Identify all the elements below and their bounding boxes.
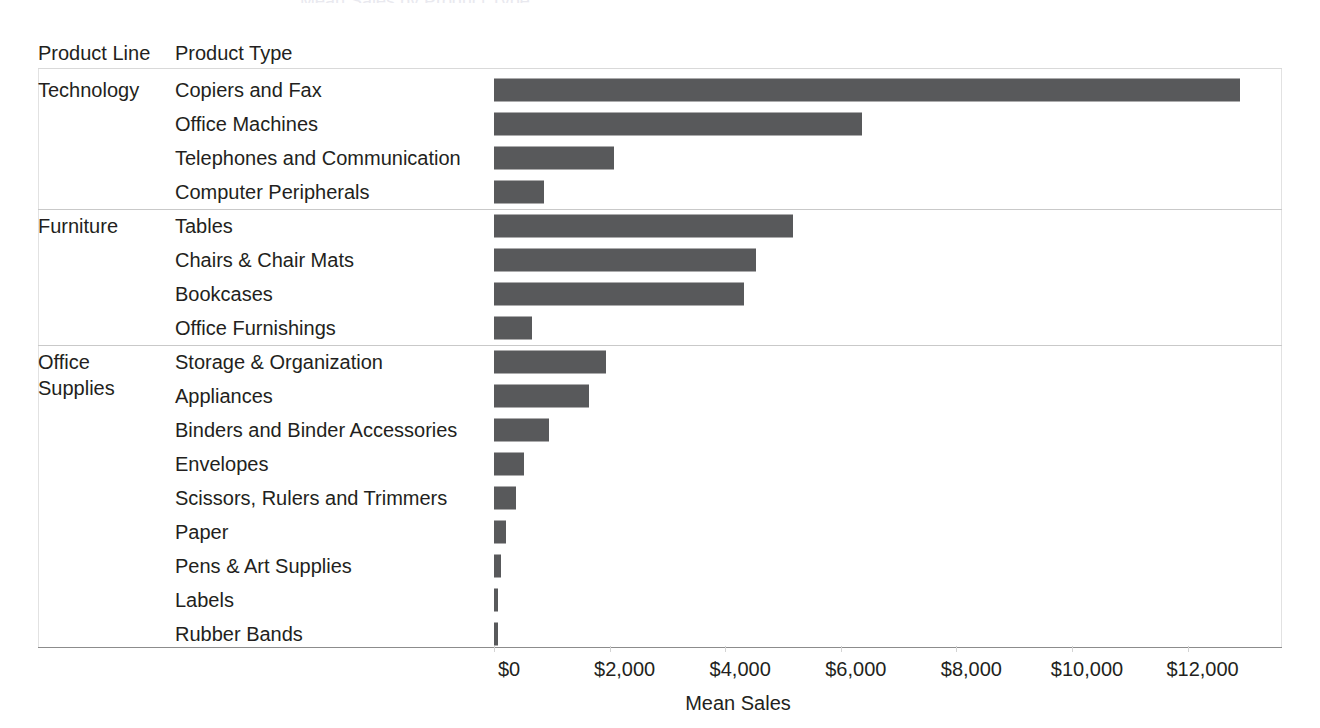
x-axis-tick (1188, 646, 1189, 652)
bar[interactable] (494, 351, 606, 374)
product-type-label: Chairs & Chair Mats (175, 250, 354, 270)
bar[interactable] (494, 487, 516, 510)
product-type-label: Tables (175, 216, 233, 236)
bar[interactable] (494, 589, 498, 612)
x-axis-tick-label: $0 (498, 658, 520, 681)
product-line-header: Product Line (38, 42, 150, 65)
product-type-label: Computer Peripherals (175, 182, 370, 202)
x-axis-tick-label: $6,000 (825, 658, 886, 681)
x-axis-tick-label: $8,000 (941, 658, 1002, 681)
bar[interactable] (494, 453, 524, 476)
x-axis-tick-label: $12,000 (1166, 658, 1238, 681)
product-type-label: Appliances (175, 386, 273, 406)
chart-row: Office Machines (38, 107, 1282, 141)
product-line-label: Office Supplies (38, 349, 115, 401)
plot-area: Copiers and FaxOffice MachinesTelephones… (38, 68, 1282, 648)
chart-row: Computer Peripherals (38, 175, 1282, 209)
x-axis: $0$2,000$4,000$6,000$8,000$10,000$12,000… (38, 646, 1282, 726)
chart-row: Binders and Binder Accessories (38, 413, 1282, 447)
chart-row: Envelopes (38, 447, 1282, 481)
clipped-title-text: Mean Sales by Product Type (0, 0, 1320, 3)
column-headers: Product Line Product Type (0, 42, 1320, 70)
x-axis-tick (841, 646, 842, 652)
product-type-label: Rubber Bands (175, 624, 303, 644)
chart-row: Appliances (38, 379, 1282, 413)
product-type-label: Binders and Binder Accessories (175, 420, 457, 440)
x-axis-tick (956, 646, 957, 652)
product-type-label: Copiers and Fax (175, 80, 322, 100)
chart-row: Scissors, Rulers and Trimmers (38, 481, 1282, 515)
x-axis-tick (610, 646, 611, 652)
bar[interactable] (494, 79, 1240, 102)
chart-row: Paper (38, 515, 1282, 549)
product-type-label: Pens & Art Supplies (175, 556, 352, 576)
chart-row: Bookcases (38, 277, 1282, 311)
bar[interactable] (494, 385, 589, 408)
bar[interactable] (494, 181, 544, 204)
x-axis-tick-label: $10,000 (1051, 658, 1123, 681)
bar[interactable] (494, 113, 862, 136)
bar[interactable] (494, 317, 532, 340)
bar[interactable] (494, 215, 793, 238)
x-axis-tick (1072, 646, 1073, 652)
bar[interactable] (494, 521, 506, 544)
bar[interactable] (494, 249, 756, 272)
bar[interactable] (494, 419, 549, 442)
chart-sheet: Mean Sales by Product Type Product Line … (0, 0, 1320, 728)
x-axis-tick-label: $4,000 (710, 658, 771, 681)
x-axis-tick-label: $2,000 (594, 658, 655, 681)
product-type-label: Bookcases (175, 284, 273, 304)
product-type-label: Labels (175, 590, 234, 610)
product-line-label: Technology (38, 77, 139, 103)
product-type-header: Product Type (175, 42, 292, 65)
chart-row: Storage & Organization (38, 345, 1282, 379)
chart-row: Labels (38, 583, 1282, 617)
chart-row: Chairs & Chair Mats (38, 243, 1282, 277)
product-type-label: Paper (175, 522, 228, 542)
bar[interactable] (494, 283, 744, 306)
chart-row: Pens & Art Supplies (38, 549, 1282, 583)
bar[interactable] (494, 555, 501, 578)
chart-row: Office Furnishings (38, 311, 1282, 345)
x-axis-tick (494, 646, 495, 652)
product-type-label: Office Machines (175, 114, 318, 134)
bar[interactable] (494, 623, 498, 646)
chart-row: Tables (38, 209, 1282, 243)
chart-row: Copiers and Fax (38, 73, 1282, 107)
product-line-label: Furniture (38, 213, 118, 239)
product-type-label: Telephones and Communication (175, 148, 461, 168)
x-axis-title: Mean Sales (38, 692, 1282, 715)
bar[interactable] (494, 147, 614, 170)
chart-row: Telephones and Communication (38, 141, 1282, 175)
x-axis-tick (725, 646, 726, 652)
product-type-label: Office Furnishings (175, 318, 336, 338)
product-type-label: Storage & Organization (175, 352, 383, 372)
product-type-label: Scissors, Rulers and Trimmers (175, 488, 447, 508)
product-type-label: Envelopes (175, 454, 268, 474)
